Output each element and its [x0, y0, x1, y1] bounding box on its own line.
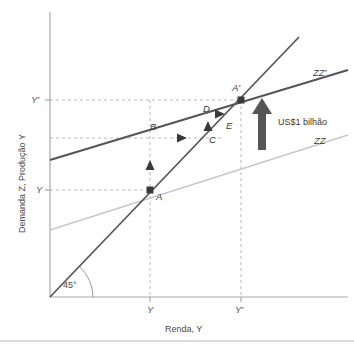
curve-zz: [50, 135, 348, 230]
point-marker-a: [147, 187, 154, 194]
point-label-e: E: [226, 121, 232, 131]
y-tick-label-y: Y: [36, 185, 42, 195]
x-axis-title: Renda, Y: [165, 325, 202, 334]
curve-zz-prime: [50, 70, 348, 160]
point-marker-a-prime: [238, 97, 245, 104]
point-label-a: A: [156, 192, 162, 202]
angle-label-45: 45°: [63, 281, 77, 290]
axes-lines: [45, 12, 348, 302]
shift-arrow-up-icon: [252, 98, 272, 150]
arrow-c-to-d-up-icon: [204, 121, 213, 131]
y-axis-title: Demanda Z, Produção Y: [18, 134, 27, 233]
keynesian-cross-plot: [0, 0, 354, 347]
point-label-a-prime: A': [232, 83, 240, 93]
figure-container: Demanda Z, Produção Y Renda, Y Y' Y Y Y'…: [0, 0, 354, 347]
point-label-b: B: [150, 122, 156, 132]
arrow-a-to-b-up-icon: [146, 160, 155, 170]
point-label-c: C: [209, 135, 216, 145]
line-45-degree: [50, 37, 299, 297]
angle-arc-45: [80, 267, 93, 297]
curve-label-zz: ZZ: [314, 136, 326, 146]
shift-annotation-label: US$1 bilhão: [278, 118, 327, 127]
x-tick-label-y: Y: [147, 305, 153, 315]
x-tick-label-y-prime: Y': [235, 305, 243, 315]
y-tick-label-y-prime: Y': [31, 95, 39, 105]
point-label-d: D: [203, 104, 210, 114]
curve-label-zz-prime: ZZ': [313, 68, 326, 78]
arrow-b-to-c-right-icon: [177, 134, 187, 143]
arrow-d-to-e-right-icon: [215, 110, 225, 119]
